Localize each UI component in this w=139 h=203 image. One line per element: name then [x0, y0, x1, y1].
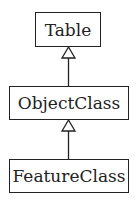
class-label-objectclass: ObjectClass [18, 93, 121, 113]
arrow-objectclass-to-table [62, 47, 75, 86]
class-box-table: Table [35, 12, 101, 47]
class-label-featureclass: FeatureClass [12, 166, 125, 186]
arrow-featureclass-to-objectclass [62, 120, 75, 159]
class-box-featureclass: FeatureClass [9, 159, 129, 193]
class-box-objectclass: ObjectClass [9, 86, 129, 120]
class-label-table: Table [45, 20, 92, 40]
